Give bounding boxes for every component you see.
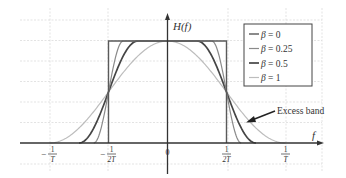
svg-text:T: T: [50, 155, 55, 164]
svg-text:−: −: [100, 149, 105, 159]
x-tick-label: 12T: [222, 145, 231, 164]
svg-text:1: 1: [284, 145, 288, 154]
x-tick-label: −12T: [100, 145, 116, 164]
x-axis-arrow-icon: [317, 141, 324, 146]
excess-band-annotation: Excess band: [246, 106, 324, 123]
svg-text:T: T: [283, 155, 288, 164]
x-tick-label: 0: [166, 148, 170, 157]
svg-text:1: 1: [225, 145, 229, 154]
svg-text:2T: 2T: [223, 155, 232, 164]
legend-label: β = 0.25: [260, 44, 293, 54]
arrow-line: [252, 111, 275, 120]
svg-text:−: −: [41, 149, 46, 159]
svg-text:1: 1: [110, 145, 114, 154]
y-axis-arrow-icon: [165, 13, 170, 20]
svg-text:2T: 2T: [108, 155, 117, 164]
svg-text:1: 1: [51, 145, 55, 154]
x-axis-label: f: [312, 129, 317, 141]
raised-cosine-chart: H(f) f −1T−12T012T1T β = 0β = 0.25β = 0.…: [0, 0, 346, 178]
legend: β = 0β = 0.25β = 0.5β = 1: [244, 24, 312, 86]
x-tick-labels: −1T−12T012T1T: [41, 145, 290, 164]
legend-label: β = 1: [260, 73, 281, 83]
excess-band-label: Excess band: [277, 106, 324, 116]
x-tick-label: 1T: [281, 145, 290, 164]
svg-text:0: 0: [166, 148, 170, 157]
x-tick-label: −1T: [41, 145, 57, 164]
legend-label: β = 0: [260, 30, 281, 40]
legend-label: β = 0.5: [260, 59, 288, 69]
y-axis-label: H(f): [172, 20, 192, 33]
